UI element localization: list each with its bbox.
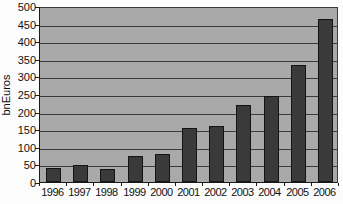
y-tick-label-500: 500 (0, 1, 36, 13)
x-tick-label-2002: 2002 (202, 186, 229, 198)
y-tick-label-150: 150 (0, 124, 36, 136)
y-tick-mark (35, 165, 39, 166)
bar-2003 (236, 105, 251, 182)
x-tick-label-1999: 1999 (121, 186, 148, 198)
x-tick-label-2006: 2006 (311, 186, 338, 198)
x-tick-mark (93, 183, 94, 186)
y-tick-mark (35, 60, 39, 61)
bar-2006 (318, 19, 333, 182)
x-tick-mark (121, 183, 122, 186)
x-tick-mark (202, 183, 203, 186)
bar-2000 (155, 154, 170, 182)
y-tick-label-350: 350 (0, 54, 36, 66)
bar-1997 (73, 165, 88, 182)
y-tick-mark (35, 130, 39, 131)
y-tick-label-50: 50 (0, 159, 36, 171)
x-tick-label-1998: 1998 (93, 186, 120, 198)
bar-2001 (182, 128, 197, 182)
x-tick-label-1996: 1996 (39, 186, 66, 198)
y-tick-label-250: 250 (0, 89, 36, 101)
x-tick-mark (148, 183, 149, 186)
y-tick-label-300: 300 (0, 71, 36, 83)
y-tick-label-200: 200 (0, 107, 36, 119)
y-tick-label-400: 400 (0, 36, 36, 48)
bar-2002 (209, 126, 224, 182)
x-tick-mark (311, 183, 312, 186)
plot-area (39, 7, 338, 183)
y-tick-mark (35, 25, 39, 26)
y-tick-label-450: 450 (0, 19, 36, 31)
x-tick-label-2003: 2003 (229, 186, 256, 198)
bar-2004 (264, 96, 279, 182)
y-tick-mark (35, 95, 39, 96)
y-tick-mark (35, 42, 39, 43)
bar-chart: bnEuros 50045040035030025020015010050019… (0, 0, 343, 204)
x-tick-label-2004: 2004 (256, 186, 283, 198)
y-tick-label-100: 100 (0, 142, 36, 154)
x-tick-label-1997: 1997 (66, 186, 93, 198)
x-tick-mark (256, 183, 257, 186)
y-tick-mark (35, 148, 39, 149)
x-tick-mark (284, 183, 285, 186)
bar-2005 (291, 65, 306, 182)
gridline (40, 61, 337, 62)
bar-1996 (46, 168, 61, 182)
x-tick-label-2005: 2005 (284, 186, 311, 198)
x-tick-mark (175, 183, 176, 186)
y-tick-mark (35, 113, 39, 114)
x-tick-mark (39, 183, 40, 186)
bar-1999 (128, 156, 143, 182)
gridline (40, 43, 337, 44)
y-tick-mark (35, 77, 39, 78)
x-tick-mark (338, 183, 339, 186)
y-tick-label-0: 0 (0, 177, 36, 189)
x-tick-mark (229, 183, 230, 186)
y-tick-mark (35, 7, 39, 8)
x-tick-mark (66, 183, 67, 186)
bar-1998 (100, 169, 115, 182)
gridline (40, 26, 337, 27)
x-tick-label-2000: 2000 (148, 186, 175, 198)
x-tick-label-2001: 2001 (175, 186, 202, 198)
